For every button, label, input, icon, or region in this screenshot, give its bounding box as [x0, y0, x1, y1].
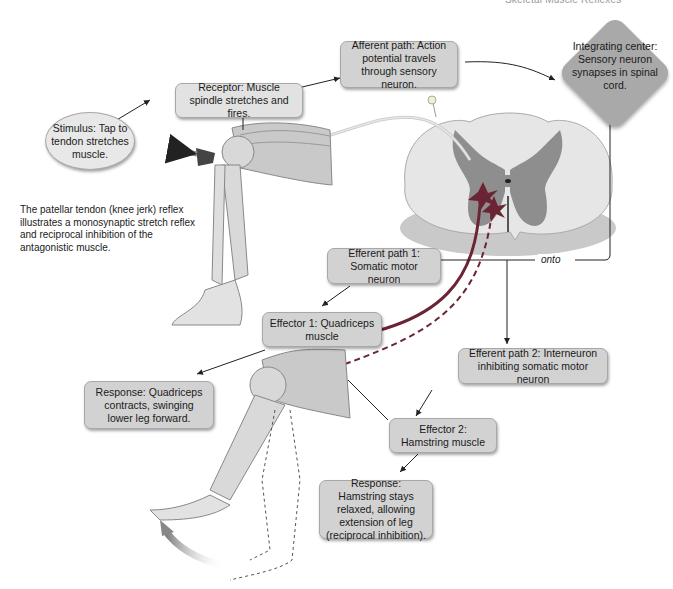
effector-2-text: Effector 2: Hamstring muscle [396, 423, 490, 449]
integrating-center-text: Integrating center: Sensory neuron synap… [560, 40, 670, 92]
effector-1-node: Effector 1: Quadriceps muscle [262, 312, 382, 347]
response-1-text: Response: Quadriceps contracts, swinging… [91, 386, 207, 425]
efferent-path-1-node: Efferent path 1: Somatic motor neuron [327, 248, 441, 284]
afferent-path-text: Afferent path: Action potential travels … [347, 39, 451, 91]
stimulus-node: Stimulus: Tap to tendon stretches muscle… [45, 112, 135, 170]
efferent-path-2-text: Efferent path 2: Interneuron inhibiting … [465, 347, 601, 386]
spinal-cord-icon [400, 113, 616, 256]
response-1-node: Response: Quadriceps contracts, swinging… [84, 381, 214, 429]
effector-1-text: Effector 1: Quadriceps muscle [269, 317, 375, 343]
receptor-text: Receptor: Muscle spindle stretches and f… [182, 81, 296, 120]
afferent-path-node: Afferent path: Action potential travels … [340, 41, 458, 88]
efferent-path-2-node: Efferent path 2: Interneuron inhibiting … [458, 348, 608, 384]
efferent-path-1-text: Efferent path 1: Somatic motor neuron [334, 247, 434, 286]
response-2-node: Response: Hamstring stays relaxed, allow… [319, 480, 433, 539]
effector-2-node: Effector 2: Hamstring muscle [389, 418, 497, 453]
response-2-text: Response: Hamstring stays relaxed, allow… [326, 477, 426, 542]
stimulus-text: Stimulus: Tap to tendon stretches muscle… [46, 122, 134, 161]
receptor-node: Receptor: Muscle spindle stretches and f… [175, 83, 303, 118]
onto-label: onto [538, 254, 563, 265]
caption-text: The patellar tendon (knee jerk) reflex i… [20, 204, 200, 254]
